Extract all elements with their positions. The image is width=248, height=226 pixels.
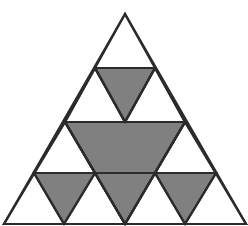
fractal-figure-container	[0, 0, 248, 226]
sierpinski-triangle-svg	[0, 0, 248, 226]
